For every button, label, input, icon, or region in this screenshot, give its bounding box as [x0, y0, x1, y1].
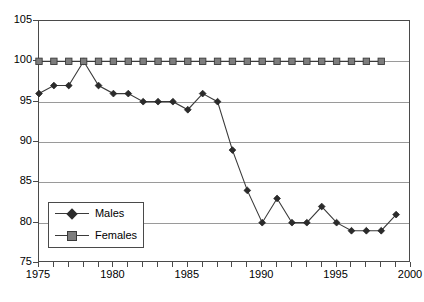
- x-tick-mark-1986: [202, 262, 203, 267]
- x-tick-mark-1979: [98, 262, 99, 267]
- data-point: [304, 58, 310, 64]
- data-point: [110, 90, 117, 97]
- x-tick-mark-1981: [127, 262, 128, 267]
- x-axis: 197519801985199019952000: [38, 262, 410, 292]
- x-tick-mark-1980: [112, 262, 113, 267]
- data-point: [50, 82, 57, 89]
- y-tick-label-100: 100: [0, 54, 32, 65]
- x-tick-mark-1991: [276, 262, 277, 267]
- line-chart: 7580859095100105 Males Females 197519801…: [0, 0, 424, 302]
- y-tick-label-105: 105: [0, 14, 32, 25]
- data-point: [95, 58, 101, 64]
- data-point: [51, 58, 57, 64]
- data-point: [378, 58, 384, 64]
- y-tick-label-80: 80: [0, 216, 32, 227]
- data-point: [110, 58, 116, 64]
- data-point: [363, 58, 369, 64]
- data-point: [65, 82, 72, 89]
- legend-item-females: Females: [49, 225, 143, 247]
- x-tick-mark-1998: [380, 262, 381, 267]
- x-tick-mark-1999: [395, 262, 396, 267]
- data-point: [319, 58, 325, 64]
- data-point: [214, 98, 221, 105]
- y-tick-label-95: 95: [0, 95, 32, 106]
- diamond-icon: [66, 208, 77, 219]
- y-tick-label-75: 75: [0, 256, 32, 267]
- x-tick-label-1985: 1985: [175, 269, 199, 280]
- data-point: [229, 58, 235, 64]
- x-tick-mark-1995: [336, 262, 337, 267]
- data-point: [363, 227, 370, 234]
- data-point: [80, 58, 86, 64]
- x-tick-mark-2000: [410, 262, 411, 267]
- data-point: [36, 58, 42, 64]
- data-point: [199, 58, 205, 64]
- data-point: [244, 58, 250, 64]
- data-point: [155, 98, 162, 105]
- x-tick-mark-1978: [83, 262, 84, 267]
- x-tick-mark-1982: [142, 262, 143, 267]
- data-point: [170, 58, 176, 64]
- x-tick-mark-1976: [53, 262, 54, 267]
- data-point: [140, 98, 147, 105]
- data-point: [140, 58, 146, 64]
- y-tick-label-85: 85: [0, 175, 32, 186]
- legend-label-females: Females: [95, 230, 137, 241]
- data-point: [274, 58, 280, 64]
- data-point: [155, 58, 161, 64]
- x-tick-label-1975: 1975: [26, 269, 50, 280]
- legend-item-males: Males: [49, 203, 143, 225]
- data-point: [274, 195, 281, 202]
- data-point: [244, 187, 251, 194]
- legend-marker-females: [55, 230, 89, 242]
- x-tick-mark-1988: [231, 262, 232, 267]
- data-point: [125, 90, 132, 97]
- x-tick-mark-1994: [321, 262, 322, 267]
- data-point: [348, 58, 354, 64]
- data-point: [259, 58, 265, 64]
- x-tick-mark-1993: [306, 262, 307, 267]
- x-tick-mark-1997: [365, 262, 366, 267]
- x-tick-label-2000: 2000: [398, 269, 422, 280]
- data-point: [229, 147, 236, 154]
- data-point: [125, 58, 131, 64]
- x-tick-label-1990: 1990: [249, 269, 273, 280]
- data-point: [289, 219, 296, 226]
- chart-legend: Males Females: [48, 202, 144, 248]
- data-point: [170, 98, 177, 105]
- data-point: [214, 58, 220, 64]
- square-icon: [67, 231, 77, 241]
- x-tick-mark-1987: [217, 262, 218, 267]
- x-tick-mark-1996: [350, 262, 351, 267]
- data-point: [289, 58, 295, 64]
- data-point: [185, 58, 191, 64]
- x-tick-mark-1989: [246, 262, 247, 267]
- x-tick-mark-1983: [157, 262, 158, 267]
- plot-area: Males Females: [38, 20, 410, 262]
- x-tick-mark-1977: [68, 262, 69, 267]
- legend-label-males: Males: [95, 208, 124, 219]
- x-tick-mark-1992: [291, 262, 292, 267]
- data-point: [95, 82, 102, 89]
- x-tick-mark-1990: [261, 262, 262, 267]
- x-tick-mark-1984: [172, 262, 173, 267]
- data-point: [36, 90, 43, 97]
- series-females: [36, 58, 385, 64]
- y-tick-label-90: 90: [0, 135, 32, 146]
- legend-marker-males: [55, 208, 89, 220]
- data-point: [66, 58, 72, 64]
- data-point: [333, 58, 339, 64]
- x-tick-label-1995: 1995: [323, 269, 347, 280]
- data-point: [348, 227, 355, 234]
- x-tick-label-1980: 1980: [100, 269, 124, 280]
- x-tick-mark-1975: [38, 262, 39, 267]
- data-point: [259, 219, 266, 226]
- x-tick-mark-1985: [187, 262, 188, 267]
